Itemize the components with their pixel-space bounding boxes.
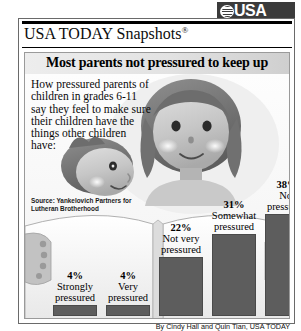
bar-name-strongly-pressured-line1: Strongly (57, 281, 93, 292)
bar-name-somewhat-pressured-line2: pressured (214, 221, 254, 232)
bar-somewhat-pressured (212, 234, 256, 316)
byline: By Cindy Hall and Quin Tian, USA TODAY (19, 322, 296, 331)
bar-label-very-pressured: 4% Very pressured (98, 271, 158, 303)
headline-text: Most parents not pressured to keep up (25, 55, 289, 71)
bar-label-not-pressured: 38% Not pressured (257, 180, 290, 212)
bar-not-very-pressured (159, 257, 203, 316)
bar-not-pressured (265, 214, 290, 316)
bar-name-not-pressured-line1: Not (279, 190, 290, 201)
page-title: USA TODAY Snapshots® (24, 25, 188, 43)
snapshot-infographic: USA TODAY USA TODAY Snapshots® Most pare… (0, 0, 301, 331)
bar-label-strongly-pressured: 4% Strongly pressured (45, 271, 105, 303)
header-rule-thick (22, 21, 292, 24)
bar-name-very-pressured-line2: pressured (108, 292, 148, 303)
headline-band: Most parents not pressured to keep up (25, 53, 289, 75)
bar-very-pressured (106, 305, 150, 316)
page-title-text: USA TODAY Snapshots (24, 25, 181, 42)
bar-name-strongly-pressured-line2: pressured (55, 292, 95, 303)
snapshot-frame: USA TODAY Snapshots® Most parents not pr… (18, 18, 295, 324)
bar-strongly-pressured (53, 305, 97, 316)
intro-text: How pressured parents of children in gra… (31, 78, 153, 152)
bar-name-very-pressured-line1: Very (118, 281, 138, 292)
bar-name-somewhat-pressured-line1: Somewhat (212, 210, 256, 221)
bar-name-not-very-pressured-line2: pressured (161, 244, 201, 255)
source-note: Source: Yankelovich Partners for Luthera… (31, 197, 143, 212)
registered-mark: ® (181, 25, 188, 35)
chart-panel: Most parents not pressured to keep up (24, 52, 290, 319)
bar-name-not-pressured-line2: pressured (267, 201, 290, 212)
bar-name-not-very-pressured-line1: Not very (162, 233, 199, 244)
header-rule-thin (22, 47, 292, 48)
